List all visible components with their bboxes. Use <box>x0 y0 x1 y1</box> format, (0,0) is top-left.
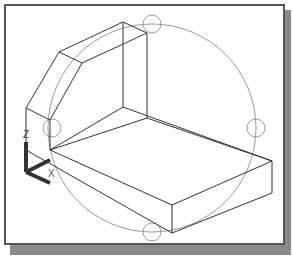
model-wireframe <box>26 22 272 233</box>
arcball-grip-left[interactable] <box>43 119 61 137</box>
ucs-y-axis <box>26 160 50 172</box>
drawing-canvas[interactable]: Z X <box>0 0 293 260</box>
arcball-circle[interactable] <box>48 24 256 232</box>
orbit-arcball[interactable] <box>43 15 265 241</box>
ucs-z-label: Z <box>23 129 29 140</box>
ucs-x-label: X <box>48 168 55 179</box>
ucs-x-axis <box>26 172 50 183</box>
